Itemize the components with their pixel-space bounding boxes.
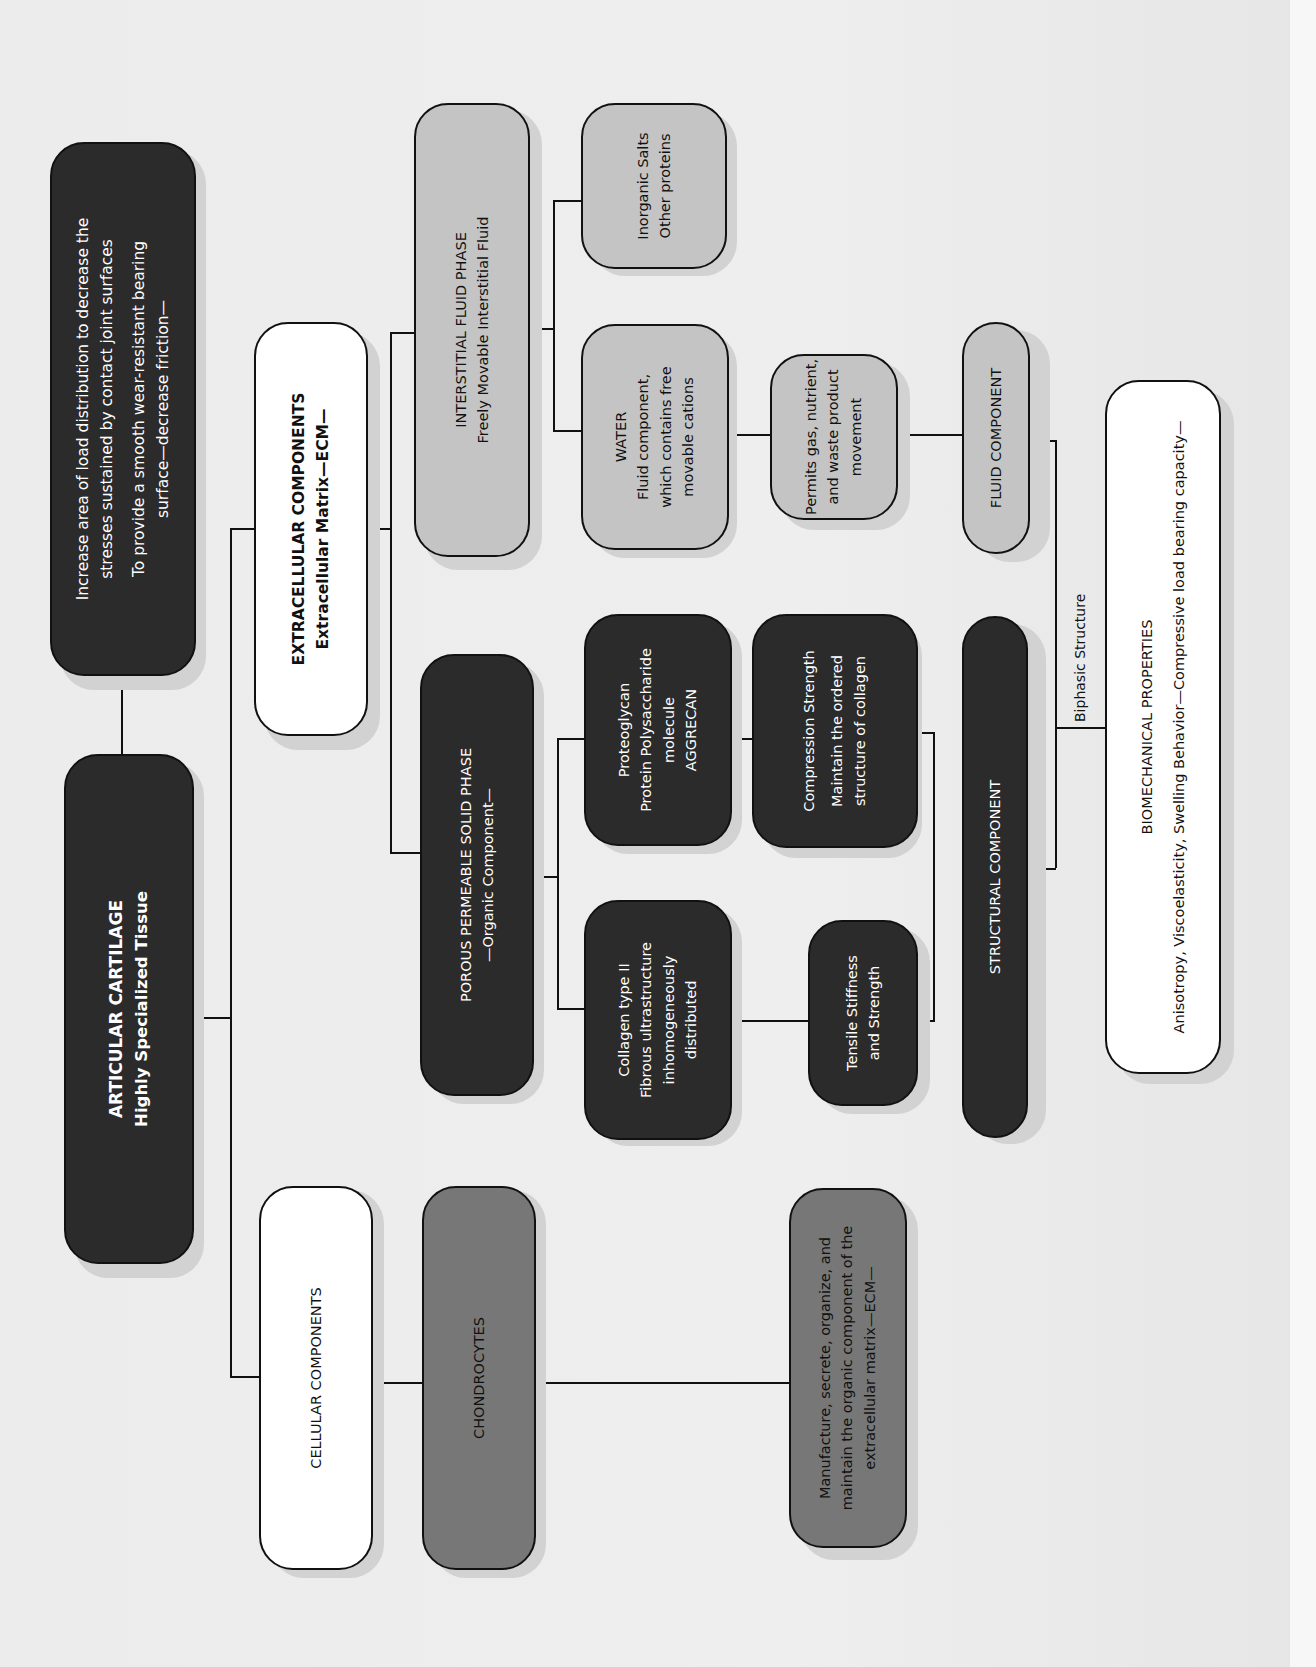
role-line-1: Manufacture, secrete, organize, and	[814, 1226, 836, 1511]
proteoglycan-line-3: molecule	[658, 648, 680, 812]
compression-line-2: Maintain the ordered	[827, 650, 849, 811]
fluid-phase-title: INTERSTITIAL FLUID PHASE	[450, 217, 472, 444]
root-subtitle: Highly Specialized Tissue	[129, 891, 155, 1127]
connector-to-collagen	[557, 1008, 585, 1010]
salts-line-2: Other proteins	[654, 132, 676, 239]
proteoglycan-line-4: AGGRECAN	[680, 648, 702, 812]
compression-strength-box: Compression Strength Maintain the ordere…	[752, 614, 918, 848]
structural-component-box: STRUCTURAL COMPONENT	[962, 616, 1028, 1138]
interstitial-fluid-phase-box: INTERSTITIAL FLUID PHASE Freely Movable …	[414, 103, 530, 557]
connector-ecm-vertical	[390, 332, 392, 852]
inorganic-salts-box: Inorganic Salts Other proteins	[581, 103, 727, 269]
ecm-title: EXTRACELLULAR COMPONENTS	[287, 393, 311, 666]
compression-line-3: structure of collagen	[849, 650, 871, 811]
biphasic-structure-label: Biphasic Structure	[1072, 594, 1088, 722]
connector-to-proteoglycan	[557, 738, 585, 740]
solid-phase-title: POROUS PERMEABLE SOLID PHASE	[455, 748, 477, 1002]
solid-phase-subtitle: —Organic Component—	[477, 748, 499, 1002]
water-line-2: Fluid component,	[633, 366, 655, 507]
collagen-line-4: distributed	[680, 942, 702, 1098]
chondrocyte-role-box: Manufacture, secrete, organize, and main…	[789, 1188, 907, 1548]
connector-to-salts	[553, 200, 581, 202]
fluid-component-box: FLUID COMPONENT	[962, 322, 1030, 554]
functions-line-4: surface—decrease friction—	[151, 218, 175, 601]
extracellular-components-box: EXTRACELLULAR COMPONENTS Extracellular M…	[254, 322, 368, 736]
proteoglycan-line-2: Protein Polysaccharide	[636, 648, 658, 812]
collagen-line-1: Collagen type II	[613, 942, 635, 1098]
salts-line-1: Inorganic Salts	[632, 132, 654, 239]
water-line-4: movable cations	[677, 366, 699, 507]
connector-to-fluid-phase	[390, 332, 414, 334]
functions-box: Increase area of load distribution to de…	[50, 142, 196, 676]
cellular-title: CELLULAR COMPONENTS	[305, 1287, 327, 1468]
root-title: ARTICULAR CARTILAGE	[103, 891, 129, 1127]
permits-line-1: Permits gas, nutrient,	[800, 359, 822, 515]
biomechanical-properties-box: BIOMECHANICAL PROPERTIES Anisotropy, Vis…	[1105, 380, 1221, 1074]
porous-solid-phase-box: POROUS PERMEABLE SOLID PHASE —Organic Co…	[420, 654, 534, 1096]
permits-box: Permits gas, nutrient, and waste product…	[770, 354, 898, 520]
collagen-line-2: Fibrous ultrastructure	[636, 942, 658, 1098]
connector-main-branch	[230, 528, 232, 1378]
fluid-phase-subtitle: Freely Movable Interstitial Fluid	[472, 217, 494, 444]
water-line-3: which contains free	[655, 366, 677, 507]
tensile-line-2: and Strength	[863, 955, 885, 1071]
ecm-subtitle: Extracellular Matrix—ECM—	[311, 393, 335, 666]
proteoglycan-line-1: Proteoglycan	[613, 648, 635, 812]
connector-chondrocytes-role	[536, 1382, 790, 1384]
structural-component-title: STRUCTURAL COMPONENT	[984, 780, 1006, 974]
root-box-articular-cartilage: ARTICULAR CARTILAGE Highly Specialized T…	[64, 754, 194, 1264]
collagen-box: Collagen type II Fibrous ultrastructure …	[584, 900, 732, 1140]
cellular-components-box: CELLULAR COMPONENTS	[259, 1186, 373, 1570]
chondrocytes-box: CHONDROCYTES	[422, 1186, 536, 1570]
connector-collagen-tensile	[732, 1020, 808, 1022]
fluid-component-title: FLUID COMPONENT	[985, 368, 1007, 508]
proteoglycan-box: Proteoglycan Protein Polysaccharide mole…	[584, 614, 732, 846]
connector-to-cellular	[230, 1376, 260, 1378]
tensile-line-1: Tensile Stiffness	[841, 955, 863, 1071]
connector-fluid-branch-vertical	[553, 200, 555, 430]
connector-to-water	[553, 430, 581, 432]
biomech-subtitle: Anisotropy, Viscoelasticity, Swelling Be…	[1168, 421, 1190, 1034]
permits-line-2: and waste product	[823, 359, 845, 515]
biomech-title: BIOMECHANICAL PROPERTIES	[1136, 421, 1158, 1034]
connector-solid-branch-vertical	[557, 738, 559, 1008]
connector-to-biomech	[1055, 727, 1105, 729]
water-line-1: WATER	[610, 366, 632, 507]
page-edge	[1290, 0, 1316, 1667]
role-line-3: extracellular matrix—ECM—	[859, 1226, 881, 1511]
connector-structural-vertical	[933, 732, 935, 1022]
functions-line-2: stresses sustained by contact joint surf…	[95, 218, 119, 601]
water-box: WATER Fluid component, which contains fr…	[581, 324, 729, 550]
connector-to-ecm	[230, 528, 254, 530]
functions-line-1: Increase area of load distribution to de…	[71, 218, 95, 601]
connector-biphasic-vertical	[1055, 440, 1057, 868]
permits-line-3: movement	[845, 359, 867, 515]
role-line-2: maintain the organic component of the	[837, 1226, 859, 1511]
tensile-stiffness-box: Tensile Stiffness and Strength	[808, 920, 918, 1106]
collagen-line-3: inhomogeneously	[658, 942, 680, 1098]
functions-line-3: To provide a smooth wear-resistant beari…	[127, 218, 151, 601]
chondrocytes-title: CHONDROCYTES	[468, 1317, 490, 1439]
compression-line-1: Compression Strength	[798, 650, 820, 811]
connector-to-solid-phase	[390, 852, 420, 854]
